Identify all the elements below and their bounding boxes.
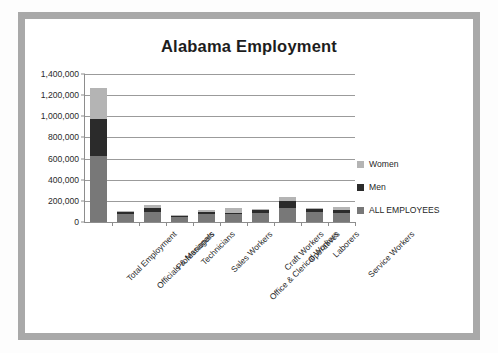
bar-segment[interactable] xyxy=(90,88,107,119)
y-axis-tick-label: 600,000 xyxy=(48,154,79,164)
bar-segment[interactable] xyxy=(333,210,350,213)
bar-column[interactable] xyxy=(144,205,161,222)
bar-segment[interactable] xyxy=(252,213,269,223)
chart-plot-area: 1,400,0001,200,0001,000,000800,000600,00… xyxy=(85,74,355,222)
bar-segment[interactable] xyxy=(117,211,134,212)
legend-swatch-icon xyxy=(357,184,364,191)
bar-segment[interactable] xyxy=(252,209,269,210)
x-axis-tick-mark xyxy=(274,222,275,226)
x-axis-tick-mark xyxy=(139,222,140,226)
bar-segment[interactable] xyxy=(333,213,350,222)
bar-segment[interactable] xyxy=(144,208,161,212)
y-axis-tick-label: 1,400,000 xyxy=(41,69,79,79)
legend-swatch-icon xyxy=(357,161,364,168)
legend-item-label: ALL EMPLOYEES xyxy=(369,205,439,215)
bar-column[interactable] xyxy=(171,215,188,222)
bar-column[interactable] xyxy=(198,210,215,222)
y-axis-tick-label: 400,000 xyxy=(48,175,79,185)
bar-segment[interactable] xyxy=(117,214,134,222)
bar-column[interactable] xyxy=(225,208,242,222)
bar-segment[interactable] xyxy=(144,205,161,208)
bar-segment[interactable] xyxy=(171,215,188,216)
x-axis-category-label: Service Workers xyxy=(365,229,415,279)
bar-column[interactable] xyxy=(306,208,323,222)
y-axis-tick-label: 1,200,000 xyxy=(41,90,79,100)
bar-segment[interactable] xyxy=(279,201,296,208)
bar-segment[interactable] xyxy=(198,214,215,222)
legend-item[interactable]: ALL EMPLOYEES xyxy=(357,205,475,215)
x-axis-tick-mark xyxy=(166,222,167,226)
bar-segment[interactable] xyxy=(225,208,242,213)
y-axis-tick-label: 1,000,000 xyxy=(41,111,79,121)
bar-column[interactable] xyxy=(252,209,269,222)
x-axis-tick-mark xyxy=(112,222,113,226)
bar-segment[interactable] xyxy=(225,214,242,222)
bar-segment[interactable] xyxy=(171,217,188,222)
x-axis-tick-mark xyxy=(301,222,302,226)
bar-segment[interactable] xyxy=(225,213,242,214)
bar-series-container xyxy=(85,74,355,222)
bar-column[interactable] xyxy=(333,207,350,222)
bar-segment[interactable] xyxy=(198,210,215,212)
bar-segment[interactable] xyxy=(117,211,134,214)
bar-segment[interactable] xyxy=(252,209,269,212)
bar-segment[interactable] xyxy=(171,215,188,216)
slide-canvas: Alabama Employment 1,400,0001,200,0001,0… xyxy=(25,19,473,333)
legend-item-label: Women xyxy=(369,159,398,169)
bar-segment[interactable] xyxy=(90,119,107,157)
legend-swatch-icon xyxy=(357,207,364,214)
bar-segment[interactable] xyxy=(144,212,161,222)
legend-item[interactable]: Men xyxy=(357,182,475,192)
y-axis-tick-label: 200,000 xyxy=(48,196,79,206)
slide-frame: Alabama Employment 1,400,0001,200,0001,0… xyxy=(18,12,480,340)
legend-item[interactable]: Women xyxy=(357,159,475,169)
bar-column[interactable] xyxy=(90,88,107,222)
x-axis-tick-mark xyxy=(247,222,248,226)
bar-segment[interactable] xyxy=(306,212,323,222)
bar-column[interactable] xyxy=(117,211,134,222)
bar-segment[interactable] xyxy=(306,208,323,209)
chart-title: Alabama Employment xyxy=(25,37,473,56)
screenshot-page: Alabama Employment 1,400,0001,200,0001,0… xyxy=(0,0,498,353)
bar-segment[interactable] xyxy=(198,212,215,214)
legend-item-label: Men xyxy=(369,182,386,192)
x-axis-tick-mark xyxy=(220,222,221,226)
chart-legend: WomenMenALL EMPLOYEES xyxy=(357,159,475,228)
bar-segment[interactable] xyxy=(90,156,107,222)
bar-segment[interactable] xyxy=(279,208,296,222)
bar-segment[interactable] xyxy=(306,209,323,212)
x-axis-tick-mark xyxy=(355,222,356,226)
bar-segment[interactable] xyxy=(333,207,350,211)
bar-segment[interactable] xyxy=(279,197,296,202)
bar-column[interactable] xyxy=(279,197,296,222)
y-axis-tick-label: 0 xyxy=(74,217,79,227)
x-axis-tick-mark xyxy=(193,222,194,226)
y-axis-tick-label: 800,000 xyxy=(48,132,79,142)
x-axis-tick-mark xyxy=(328,222,329,226)
